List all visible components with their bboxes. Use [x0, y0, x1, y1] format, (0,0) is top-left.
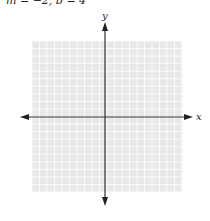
y-axis-bottom-arrow-icon — [102, 197, 108, 206]
x-axis-label: x — [196, 111, 202, 122]
y-axis-label: y — [101, 10, 108, 21]
x-axis-left-arrow-icon — [20, 114, 29, 120]
x-axis-right-arrow-icon — [184, 114, 193, 120]
y-axis-top-arrow-icon — [102, 22, 108, 31]
coordinate-plane: x y — [0, 0, 210, 221]
